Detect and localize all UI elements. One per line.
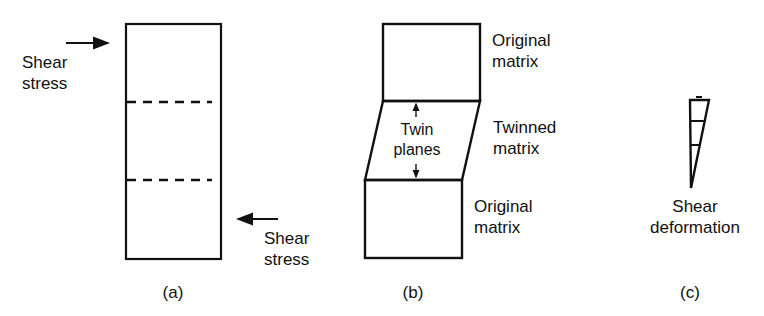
shear-stress-label-bottom: Shear stress — [264, 228, 309, 270]
label-line: Twinned — [493, 117, 556, 138]
shear-stress-label-top: Shear stress — [22, 52, 67, 94]
crystal-block — [126, 24, 221, 259]
label-line: planes — [385, 140, 449, 160]
diagram-canvas — [0, 0, 764, 316]
original-matrix-top — [383, 24, 480, 101]
label-line: Shear — [22, 52, 67, 73]
label-line: stress — [264, 249, 309, 270]
label-line: matrix — [492, 51, 551, 72]
caption-c: (c) — [665, 282, 715, 303]
original-matrix-bottom — [365, 180, 462, 258]
label-line: matrix — [474, 217, 533, 238]
panel-a — [66, 24, 278, 259]
label-line: Twin — [385, 120, 449, 140]
panel-c — [690, 97, 709, 188]
label-line: Shear — [264, 228, 309, 249]
caption-a: (a) — [148, 282, 198, 303]
caption-b: (b) — [388, 282, 438, 303]
original-matrix-label-bottom: Original matrix — [474, 196, 533, 238]
label-line: stress — [22, 73, 67, 94]
label-line: Shear — [640, 196, 750, 217]
original-matrix-label-top: Original matrix — [492, 30, 551, 72]
label-line: deformation — [640, 217, 750, 238]
twinned-matrix-label: Twinned matrix — [493, 117, 556, 159]
shear-deformation-label: Shear deformation — [640, 196, 750, 238]
twin-planes-label: Twin planes — [385, 120, 449, 160]
label-line: Original — [474, 196, 533, 217]
label-line: matrix — [493, 138, 556, 159]
label-line: Original — [492, 30, 551, 51]
